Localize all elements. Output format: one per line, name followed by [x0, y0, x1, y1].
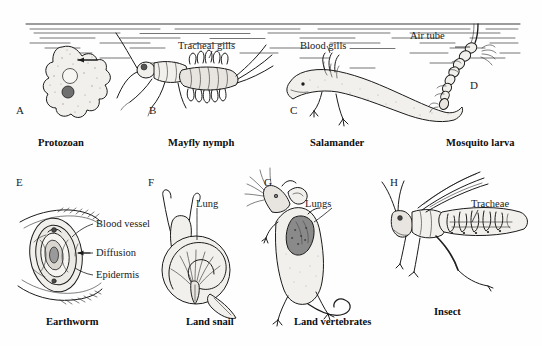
label-epidermis: Epidermis [96, 269, 139, 280]
protozoan-drawing [43, 46, 110, 117]
caption-land-snail: Land snail [186, 316, 234, 327]
label-tracheae: Tracheae [471, 198, 509, 209]
label-tracheal-gills: Tracheal gills [178, 40, 235, 51]
insect-legs [396, 236, 493, 291]
letter-g: G [264, 176, 272, 188]
label-lung: Lung [196, 198, 218, 209]
label-blood-gills: Blood gills [300, 40, 346, 51]
mouse-ear-far [282, 181, 296, 186]
caption-mosquito-larva: Mosquito larva [446, 137, 515, 148]
larva-body [438, 41, 479, 111]
earthworm-drawing [18, 208, 102, 304]
hind-femur [436, 236, 458, 270]
water-surface-illustration [0, 0, 542, 346]
air-tube [475, 24, 478, 43]
caption-earthworm: Earthworm [46, 316, 99, 327]
label-lungs: Lungs [305, 198, 331, 209]
compound-eye [141, 64, 147, 70]
label-air-tube: Air tube [410, 30, 445, 41]
letter-c: C [290, 104, 297, 116]
caption-salamander: Salamander [310, 137, 364, 148]
contractile-vacuole [63, 69, 78, 84]
insect-head [391, 211, 412, 238]
gut [50, 247, 59, 263]
caudal-filaments [236, 45, 273, 83]
snail-tail [208, 294, 236, 319]
letter-a: A [16, 104, 24, 116]
hind-tibia [458, 270, 488, 286]
caption-protozoan: Protozoan [38, 137, 84, 148]
mouse-head [263, 186, 290, 213]
label-diffusion: Diffusion [96, 247, 136, 258]
caption-land-vertebrates: Land vertebrates [294, 316, 371, 327]
salamander-limbs [310, 92, 348, 126]
letter-f: F [148, 176, 154, 188]
mouse-tail [308, 299, 350, 315]
letter-h: H [390, 176, 398, 188]
gas-exchange-figure: Tracheal gills Blood gills Air tube Bloo… [0, 0, 542, 346]
salamander-eye [301, 82, 304, 85]
letter-e: E [16, 176, 23, 188]
letter-b: B [149, 104, 156, 116]
worm-hatching-bottom [60, 291, 101, 304]
caption-insect: Insect [434, 306, 461, 317]
letter-d: D [470, 79, 478, 91]
caption-mayfly-nymph: Mayfly nymph [168, 137, 234, 148]
larva-head [438, 97, 450, 110]
land-snail-drawing [162, 190, 236, 319]
land-vertebrates-drawing [245, 168, 350, 326]
insect-drawing [382, 172, 527, 291]
salamander-body [287, 70, 463, 122]
lungs-leader [314, 208, 332, 222]
nucleus [62, 86, 74, 98]
insect-eye [398, 216, 403, 221]
label-blood-vessel: Blood vessel [96, 218, 150, 229]
